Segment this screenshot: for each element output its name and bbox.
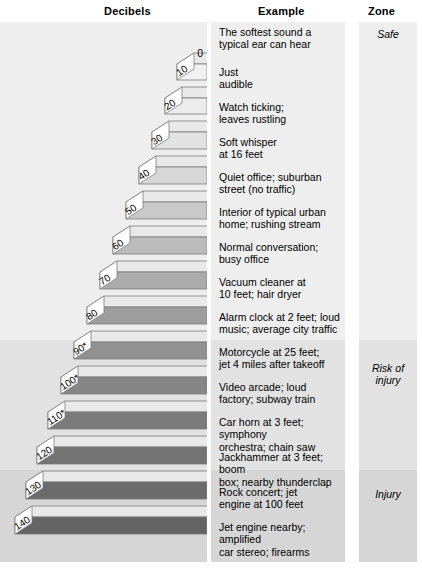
zone-injury: Injury <box>359 488 417 500</box>
example-text: Quiet office; suburbanstreet (no traffic… <box>219 171 343 196</box>
example-text: Jet engine nearby; amplifiedcar stereo; … <box>219 521 343 558</box>
column-header-decibels: Decibels <box>104 5 151 17</box>
example-text-line: music; average city traffic <box>219 323 343 335</box>
example-text-line: home; rushing stream <box>219 218 343 230</box>
example-text: The softest sound atypical ear can hear <box>219 26 343 51</box>
decibel-chart-figure: Decibels Example Zone 102030405060708090… <box>0 0 422 577</box>
column-header-zone: Zone <box>368 5 395 17</box>
example-text-line: typical ear can hear <box>219 38 343 50</box>
example-text-line: leaves rustling <box>219 113 343 125</box>
example-text-line: Just <box>219 66 343 78</box>
example-text-line: Normal conversation; <box>219 241 343 253</box>
example-text: Alarm clock at 2 feet; loudmusic; averag… <box>219 311 343 336</box>
example-text: Jackhammer at 3 feet; boombox; nearby th… <box>219 451 343 488</box>
zone-label-line: injury <box>359 374 417 386</box>
example-text-line: Alarm clock at 2 feet; loud <box>219 311 343 323</box>
example-text-line: at 16 feet <box>219 148 343 160</box>
example-text: Car horn at 3 feet; symphonyorchestra; c… <box>219 416 343 453</box>
zone-column: SafeRisk ofinjuryInjury <box>359 22 417 562</box>
example-text-line: jet 4 miles after takeoff <box>219 358 343 370</box>
example-text-line: street (no traffic) <box>219 183 343 195</box>
example-text-line: Jackhammer at 3 feet; boom <box>219 451 343 476</box>
example-text-line: Motorcycle at 25 feet; <box>219 346 343 358</box>
example-text: Watch ticking;leaves rustling <box>219 101 343 126</box>
zone-band-risk <box>359 340 417 470</box>
decibel-bar-plot: 102030405060708090*100*110*120130140 0 <box>0 22 207 562</box>
example-text: Interior of typical urbanhome; rushing s… <box>219 206 343 231</box>
zone-risk: Risk ofinjury <box>359 362 417 387</box>
example-text: Motorcycle at 25 feet;jet 4 miles after … <box>219 346 343 371</box>
column-header-example: Example <box>258 5 305 17</box>
zone-label-line: Risk of <box>359 362 417 374</box>
example-text: Vacuum cleaner at10 feet; hair dryer <box>219 276 343 301</box>
zone-band-safe <box>359 22 417 340</box>
example-text-line: Jet engine nearby; amplified <box>219 521 343 546</box>
example-text-line: Interior of typical urban <box>219 206 343 218</box>
example-text-line: audible <box>219 78 343 90</box>
decibel-zero-label: 0 <box>197 47 203 59</box>
example-text-line: Rock concert; jet <box>219 486 343 498</box>
example-text-line: Watch ticking; <box>219 101 343 113</box>
example-column: The softest sound atypical ear can hearJ… <box>211 22 345 562</box>
example-text-line: Video arcade; loud <box>219 381 343 393</box>
example-text: Rock concert; jetengine at 100 feet <box>219 486 343 511</box>
example-text: Soft whisperat 16 feet <box>219 136 343 161</box>
example-text: Video arcade; loudfactory; subway train <box>219 381 343 406</box>
example-text-line: engine at 100 feet <box>219 498 343 510</box>
zone-safe: Safe <box>359 28 417 40</box>
example-text-line: 10 feet; hair dryer <box>219 288 343 300</box>
example-text-line: The softest sound a <box>219 26 343 38</box>
example-text-line: Car horn at 3 feet; symphony <box>219 416 343 441</box>
example-text: Normal conversation;busy office <box>219 241 343 266</box>
zone-band-injury <box>359 470 417 562</box>
example-text: Justaudible <box>219 66 343 91</box>
example-text-line: factory; subway train <box>219 393 343 405</box>
example-text-line: Quiet office; suburban <box>219 171 343 183</box>
bar-geometry-140: 140 <box>0 22 207 562</box>
example-text-line: Soft whisper <box>219 136 343 148</box>
example-text-line: car stereo; firearms <box>219 546 343 558</box>
example-text-line: Vacuum cleaner at <box>219 276 343 288</box>
example-text-line: busy office <box>219 253 343 265</box>
